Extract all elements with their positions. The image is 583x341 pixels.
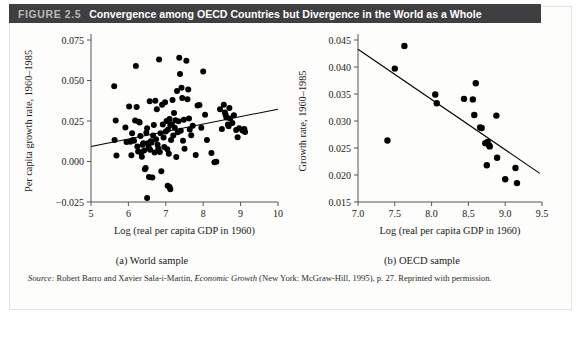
source-note: Source: Robert Barro and Xavier Sala-i-M…	[28, 272, 528, 284]
data-point	[156, 56, 162, 62]
data-point	[184, 96, 190, 102]
x-tick-label: 7	[163, 208, 168, 219]
data-point	[190, 123, 196, 129]
x-tick-label: 7.5	[389, 208, 402, 219]
data-point	[113, 118, 119, 124]
data-point	[502, 176, 508, 182]
data-point	[512, 165, 518, 171]
data-point	[167, 186, 173, 192]
figure-header-bar: FIGURE 2.5 Convergence among OECD Countr…	[9, 4, 541, 23]
source-authors: Robert Barro and Xavier Sala-i-Martin,	[54, 273, 194, 283]
data-point	[131, 138, 137, 144]
x-axis-title: Log (real per capita GDP in 1960)	[114, 225, 255, 237]
data-point	[221, 102, 227, 108]
data-point	[473, 80, 479, 86]
data-point	[219, 126, 225, 132]
x-axis-title: Log (real per capita GDP in 1960)	[380, 225, 521, 237]
data-point	[193, 152, 199, 158]
data-point	[226, 105, 232, 111]
data-point	[151, 122, 157, 128]
scatter-plot-oecd-sample: 0.0150.0200.0250.0300.0350.0400.0457.07.…	[292, 28, 552, 250]
data-point	[235, 134, 241, 140]
data-point	[401, 43, 407, 49]
data-point	[208, 150, 214, 156]
data-point	[202, 112, 208, 118]
data-point	[139, 154, 145, 160]
data-point	[432, 91, 438, 97]
data-point	[484, 162, 490, 168]
y-tick-label: 0.035	[329, 89, 352, 100]
data-point	[147, 98, 153, 104]
data-point	[153, 136, 159, 142]
x-tick-label: 8	[201, 208, 206, 219]
data-point	[173, 154, 179, 160]
data-point	[196, 102, 202, 108]
chart-panel-oecd-sample: 0.0150.0200.0250.0300.0350.0400.0457.07.…	[292, 28, 552, 268]
data-point	[154, 106, 160, 112]
data-point	[133, 63, 139, 69]
regression-line	[358, 49, 540, 173]
y-tick-label: 0.040	[329, 62, 352, 73]
data-point	[182, 146, 188, 152]
data-point	[166, 151, 172, 157]
x-tick-label: 9	[238, 208, 243, 219]
source-book-title: Economic Growth	[195, 273, 257, 283]
data-point	[204, 137, 210, 143]
data-point	[152, 98, 158, 104]
panel-caption-oecd-sample: (b) OECD sample	[292, 255, 552, 266]
data-point	[487, 143, 493, 149]
data-point	[122, 124, 128, 130]
data-point	[471, 112, 477, 118]
data-point	[128, 152, 134, 158]
data-point	[134, 104, 140, 110]
data-point	[198, 125, 204, 131]
y-tick-label: 0.050	[62, 75, 85, 86]
data-point	[478, 125, 484, 131]
data-point	[143, 165, 149, 171]
data-point	[137, 133, 143, 139]
data-point	[112, 137, 118, 143]
charts-row: −0.0250.0000.0250.0500.0755678910Log (re…	[10, 28, 553, 268]
data-point	[392, 65, 398, 71]
data-point	[213, 159, 219, 165]
figure-number-label: FIGURE 2.5	[18, 8, 81, 20]
data-point	[514, 180, 520, 186]
data-point	[167, 116, 173, 122]
data-point	[186, 116, 192, 122]
data-point	[126, 103, 132, 109]
data-point	[470, 96, 476, 102]
y-tick-label: 0.025	[329, 143, 352, 154]
y-tick-label: 0.020	[329, 170, 352, 181]
x-tick-label: 6	[126, 208, 131, 219]
data-point	[179, 95, 185, 101]
y-tick-label: 0.025	[62, 116, 85, 127]
data-point	[180, 138, 186, 144]
data-point	[157, 149, 163, 155]
source-label: Source:	[28, 273, 54, 283]
y-tick-label: 0.000	[62, 156, 85, 167]
data-point	[149, 174, 155, 180]
data-point	[129, 130, 135, 136]
data-point	[162, 99, 168, 105]
data-point	[170, 97, 176, 103]
y-tick-label: −0.025	[56, 197, 84, 208]
y-tick-label: 0.045	[329, 35, 352, 46]
data-point	[494, 155, 500, 161]
data-point	[178, 128, 184, 134]
data-point	[176, 55, 182, 61]
data-point	[185, 86, 191, 92]
data-point	[229, 120, 235, 126]
panel-caption-world-sample: (a) World sample	[18, 255, 286, 266]
x-tick-label: 9.0	[499, 208, 512, 219]
data-point	[461, 96, 467, 102]
x-tick-label: 5	[89, 208, 94, 219]
data-point	[177, 71, 183, 77]
data-point	[384, 137, 390, 143]
data-point	[137, 120, 143, 126]
y-tick-label: 0.030	[329, 116, 352, 127]
y-tick-label: 0.075	[62, 35, 85, 46]
scatter-plot-world-sample: −0.0250.0000.0250.0500.0755678910Log (re…	[18, 28, 286, 250]
data-point	[188, 132, 194, 138]
data-point	[111, 83, 117, 89]
y-axis-title: Growth rate, 1960–1985	[297, 71, 308, 172]
